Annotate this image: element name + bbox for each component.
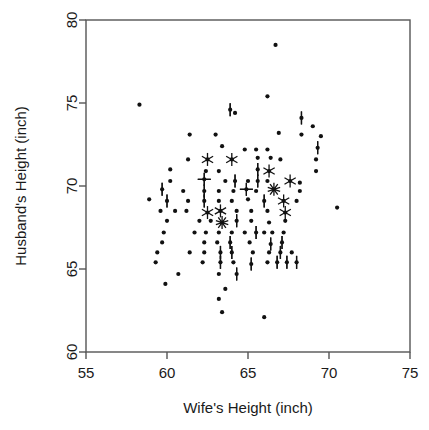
sunflower-point	[154, 260, 158, 264]
sunflower-point	[220, 310, 224, 314]
sunflower-point	[197, 219, 201, 223]
sunflower-point	[176, 272, 180, 276]
sunflower-point	[290, 250, 294, 254]
data-points-group	[137, 43, 339, 319]
sunflower-point	[223, 179, 227, 183]
sunflower-point	[235, 267, 239, 280]
x-axis-tick-label: 55	[78, 364, 95, 381]
sunflower-point	[256, 156, 260, 160]
sunflower-point	[215, 240, 219, 244]
sunflower-point	[217, 189, 221, 193]
sunflower-point	[311, 124, 315, 128]
sunflower-point	[220, 144, 224, 148]
sunflower-point	[299, 132, 303, 136]
sunflower-point	[228, 103, 232, 116]
sunflower-point	[270, 230, 274, 234]
sunflower-point	[181, 189, 185, 193]
sunflower-point	[267, 220, 271, 224]
sunflower-point	[184, 209, 188, 213]
sunflower-point	[285, 256, 289, 269]
sunflower-point	[160, 183, 164, 196]
sunflower-point	[254, 147, 258, 151]
sunflower-point	[233, 175, 237, 188]
sunflower-point	[268, 183, 280, 196]
sunflower-point	[165, 194, 169, 207]
sunflower-point	[162, 230, 166, 234]
sunflower-point	[217, 169, 221, 173]
sunflower-point	[280, 206, 291, 219]
sunflower-point	[249, 219, 253, 223]
sunflower-point	[230, 199, 234, 203]
sunflower-point	[282, 230, 286, 234]
sunflower-point	[233, 111, 237, 115]
sunflower-point	[314, 157, 318, 161]
y-axis-tick-label: 60	[63, 344, 80, 361]
sunflower-point	[262, 315, 266, 319]
sunflower-point	[217, 297, 221, 301]
sunflower-point	[265, 147, 269, 151]
sunflower-point	[226, 153, 237, 166]
sunflower-point	[277, 131, 281, 135]
y-axis-tick-label: 65	[63, 261, 80, 278]
plot-frame	[86, 20, 410, 352]
sunflower-point	[202, 206, 213, 219]
sunflower-point	[254, 189, 258, 193]
sunflower-point	[165, 219, 169, 223]
y-axis-tick-label: 70	[63, 178, 80, 195]
sunflower-point	[186, 157, 190, 161]
sunflower-point	[214, 132, 218, 136]
sunflower-point	[265, 209, 269, 213]
sunflower-point	[243, 147, 247, 151]
sunflower-point	[248, 240, 252, 244]
sunflower-point	[278, 157, 282, 161]
sunflower-point	[231, 260, 235, 264]
sunflower-point	[173, 209, 177, 213]
sunflower-point	[284, 175, 295, 188]
sunflower-point	[267, 250, 271, 254]
sunflower-point	[295, 256, 299, 269]
sunflower-point	[249, 209, 253, 213]
y-axis-tick-label: 75	[63, 95, 80, 112]
sunflower-point	[314, 169, 318, 173]
sunflower-point	[251, 250, 255, 254]
sunflower-point	[256, 163, 260, 176]
sunflower-point	[158, 209, 162, 213]
sunflower-point	[316, 141, 320, 154]
sunflower-point	[262, 230, 266, 234]
x-axis-tick-label: 65	[240, 364, 257, 381]
sunflower-point	[155, 250, 159, 254]
sunflower-point	[246, 179, 250, 183]
sunflower-scatter-plot-figure: 55606570756065707580Wife's Height (inch)…	[0, 0, 429, 430]
sunflower-point	[223, 287, 227, 291]
sunflower-point	[335, 205, 339, 209]
sunflower-point	[204, 169, 208, 173]
sunflower-point	[217, 272, 221, 276]
sunflower-point	[198, 173, 211, 186]
x-axis-tick-label: 70	[321, 364, 338, 381]
chart-canvas: 55606570756065707580Wife's Height (inch)…	[0, 0, 429, 430]
sunflower-point	[265, 94, 269, 98]
sunflower-point	[188, 250, 192, 254]
sunflower-point	[262, 194, 266, 207]
sunflower-point	[192, 230, 196, 234]
sunflower-point	[217, 230, 221, 234]
sunflower-point	[298, 189, 302, 193]
sunflower-point	[137, 103, 141, 107]
sunflower-point	[168, 179, 172, 183]
y-axis-tick-label: 80	[63, 12, 80, 29]
sunflower-point	[230, 230, 234, 234]
sunflower-point	[168, 167, 172, 171]
sunflower-point	[246, 197, 250, 201]
sunflower-point	[216, 216, 228, 229]
y-axis-title: Husband's Height (inch)	[12, 106, 29, 266]
sunflower-point	[256, 175, 260, 188]
sunflower-point	[249, 258, 253, 271]
x-axis-title: Wife's Height (inch)	[183, 399, 313, 416]
plot-area: 55606570756065707580Wife's Height (inch)…	[0, 0, 429, 430]
sunflower-point	[215, 204, 226, 217]
sunflower-point	[283, 219, 287, 223]
sunflower-point	[202, 240, 206, 244]
x-axis-tick-label: 75	[402, 364, 419, 381]
sunflower-point	[163, 282, 167, 286]
sunflower-point	[299, 111, 303, 124]
